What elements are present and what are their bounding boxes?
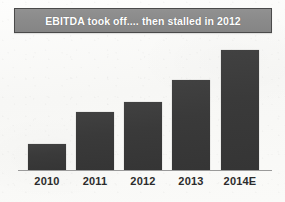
x-tick-label-2010: 2010 — [21, 175, 73, 187]
x-tick-label-2012: 2012 — [117, 175, 169, 187]
bar-2012 — [124, 102, 162, 170]
bar-2011 — [76, 112, 114, 170]
x-tick-label-2013: 2013 — [165, 175, 217, 187]
bar-2014e — [221, 50, 259, 170]
plot-area: 20102011201220132014E — [0, 0, 285, 202]
chart-figure: EBITDA took off.... then stalled in 2012… — [0, 0, 285, 202]
x-tick-label-2014e: 2014E — [214, 175, 266, 187]
x-tick-label-2011: 2011 — [69, 175, 121, 187]
x-axis-line — [18, 170, 272, 171]
bar-2013 — [172, 80, 210, 170]
bar-2010 — [28, 144, 66, 170]
